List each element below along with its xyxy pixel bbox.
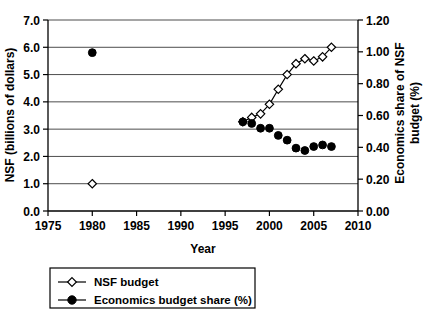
y2-tick-label: 0.40 bbox=[366, 141, 390, 155]
x-tick-label: 1980 bbox=[79, 219, 106, 233]
x-axis-title: Year bbox=[190, 242, 216, 256]
marker-filled-circle bbox=[266, 124, 274, 132]
y-tick-label: 7.0 bbox=[23, 14, 40, 28]
y-tick-label: 1.0 bbox=[23, 177, 40, 191]
series-economics-budget-share-isolated-point bbox=[88, 49, 96, 57]
marker-filled-circle bbox=[88, 49, 96, 57]
marker-filled-circle bbox=[301, 147, 309, 155]
y2-tick-label: 1.20 bbox=[366, 14, 390, 28]
marker-filled-circle bbox=[328, 143, 336, 151]
x-tick-label: 1990 bbox=[168, 219, 195, 233]
y2-tick-label: 0.80 bbox=[366, 77, 390, 91]
y2-tick-label: 0.00 bbox=[366, 205, 390, 219]
marker-filled-circle bbox=[248, 120, 256, 128]
marker-filled-circle bbox=[292, 144, 300, 152]
y-axis-right-title-line2: budget (%) bbox=[408, 82, 422, 144]
chart-figure: 19751980198519901995200020052010 0.01.02… bbox=[0, 0, 437, 314]
y2-tick-label: 0.20 bbox=[366, 173, 390, 187]
x-tick-label: 2000 bbox=[256, 219, 283, 233]
legend-item-label: NSF budget bbox=[94, 276, 159, 288]
marker-filled-circle bbox=[283, 136, 291, 144]
x-tick-label: 1995 bbox=[212, 219, 239, 233]
x-tick-label: 2005 bbox=[300, 219, 327, 233]
marker-filled-circle bbox=[239, 118, 247, 126]
marker-filled-circle bbox=[310, 143, 318, 151]
y-tick-label: 0.0 bbox=[23, 205, 40, 219]
y-tick-label: 3.0 bbox=[23, 123, 40, 137]
legend-item-label: Economics budget share (%) bbox=[94, 294, 252, 306]
chart-legend: NSF budgetEconomics budget share (%) bbox=[50, 268, 255, 308]
marker-filled-circle bbox=[274, 131, 282, 139]
y-tick-label: 6.0 bbox=[23, 41, 40, 55]
y2-tick-label: 1.00 bbox=[366, 45, 390, 59]
y2-tick-label: 0.60 bbox=[366, 109, 390, 123]
y-axis-left-title: NSF (billions of dollars) bbox=[3, 48, 17, 183]
x-tick-label: 1985 bbox=[123, 219, 150, 233]
marker-filled-circle bbox=[257, 124, 265, 132]
x-tick-label: 1975 bbox=[35, 219, 62, 233]
marker-filled-circle bbox=[319, 141, 327, 149]
y-tick-label: 5.0 bbox=[23, 68, 40, 82]
marker-filled-circle bbox=[68, 296, 76, 304]
x-tick-label: 2010 bbox=[345, 219, 372, 233]
y-axis-right-title-line1: Economics share of NSF bbox=[393, 42, 407, 183]
chart-canvas: 19751980198519901995200020052010 0.01.02… bbox=[0, 0, 437, 314]
y-tick-label: 4.0 bbox=[23, 95, 40, 109]
y-tick-label: 2.0 bbox=[23, 150, 40, 164]
